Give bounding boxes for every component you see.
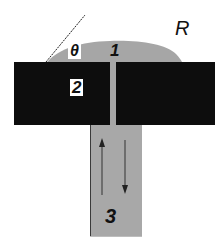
theta-label: θ [68,42,81,59]
droplet-label: 1 [110,41,119,61]
reservoir-label: 3 [105,205,116,228]
capillary-channel [110,60,116,126]
radius-label: R [175,17,189,40]
plate-label: 2 [70,79,83,96]
capillary-droplet-diagram: θ 1 R 2 3 [0,0,224,247]
